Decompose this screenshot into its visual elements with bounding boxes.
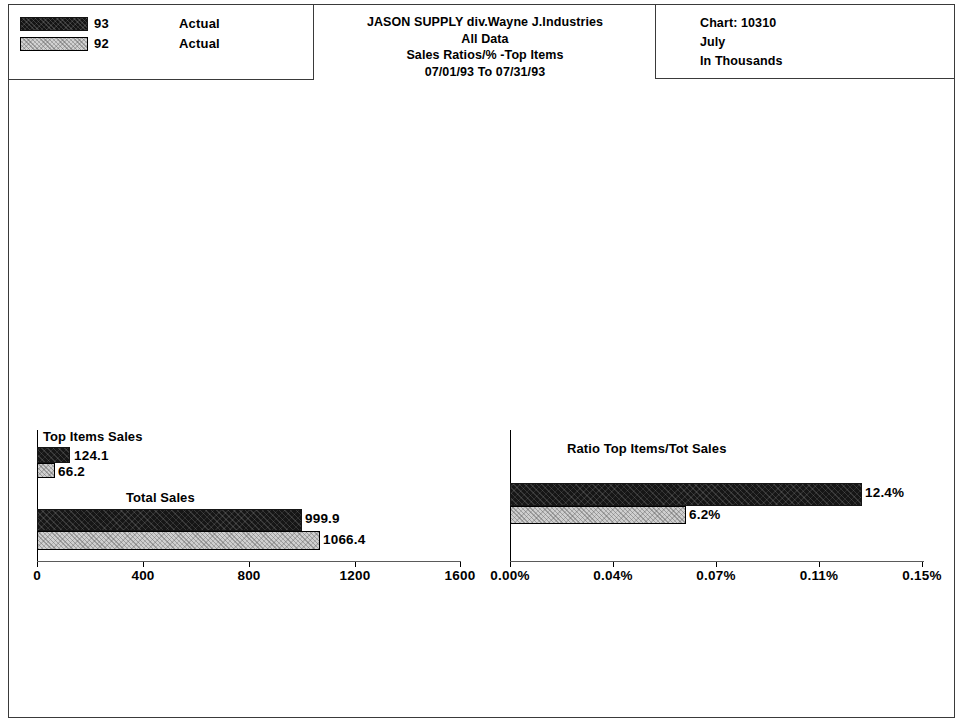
x-tick — [819, 562, 820, 567]
legend-year-93: 93 — [94, 16, 109, 31]
x-tick — [460, 562, 461, 567]
group-label-top-items-sales: Top Items Sales — [43, 430, 143, 444]
x-tick-label: 0.11% — [800, 568, 839, 583]
bar-ratio-92 — [510, 506, 686, 524]
title-scope: All Data — [461, 31, 508, 48]
x-tick-label: 0 — [33, 568, 41, 583]
report-frame — [8, 4, 955, 718]
dark-speckled-swatch — [20, 17, 88, 31]
chart-period: July — [700, 33, 954, 52]
group-label-ratio-top-items: Ratio Top Items/Tot Sales — [567, 442, 726, 456]
bar-top-items-sales-93 — [37, 447, 70, 463]
legend-type-93: Actual — [179, 16, 220, 31]
light-stippled-swatch — [20, 37, 88, 51]
x-tick-label: 0.04% — [593, 568, 632, 583]
bar-value-ratio-93: 12.4% — [865, 486, 904, 500]
title-date-range: 07/01/93 To 07/31/93 — [425, 64, 546, 81]
legend-year-92: 92 — [94, 36, 109, 51]
x-tick-label: 0.00% — [490, 568, 529, 583]
legend-box: 93 Actual 92 Actual — [8, 4, 314, 80]
bar-ratio-93 — [510, 483, 862, 506]
group-label-total-sales: Total Sales — [126, 491, 195, 505]
x-tick-label: 1600 — [445, 568, 476, 583]
bar-value-total-sales-92: 1066.4 — [323, 533, 366, 547]
x-tick — [922, 562, 923, 567]
title-subject: Sales Ratios/% -Top Items — [406, 47, 563, 64]
bar-value-total-sales-93: 999.9 — [305, 512, 340, 526]
bar-total-sales-92 — [37, 531, 320, 550]
x-tick — [510, 562, 511, 567]
bar-top-items-sales-92 — [37, 463, 55, 478]
x-tick — [716, 562, 717, 567]
x-tick — [143, 562, 144, 567]
x-tick-label: 0.15% — [902, 568, 941, 583]
legend-row — [20, 15, 88, 32]
bar-value-top-items-sales-92: 66.2 — [58, 465, 85, 479]
chart-info-box: Chart: 10310 July In Thousands — [655, 4, 955, 79]
x-tick-label: 800 — [237, 568, 260, 583]
chart-sales-amounts: Top Items Sales 124.1 66.2 Total Sales 9… — [37, 430, 461, 562]
x-axis-line — [510, 561, 924, 562]
x-tick-label: 400 — [131, 568, 154, 583]
chart-number: Chart: 10310 — [700, 14, 954, 33]
x-tick — [249, 562, 250, 567]
report-title-block: JASON SUPPLY div.Wayne J.Industries All … — [314, 4, 656, 80]
title-company: JASON SUPPLY div.Wayne J.Industries — [367, 14, 603, 31]
x-tick-label: 1200 — [340, 568, 371, 583]
bar-total-sales-93 — [37, 509, 302, 531]
legend-type-92: Actual — [179, 36, 220, 51]
x-tick — [613, 562, 614, 567]
x-tick-label: 0.07% — [696, 568, 735, 583]
chart-units: In Thousands — [700, 52, 954, 71]
bar-value-ratio-92: 6.2% — [689, 508, 721, 522]
chart-sales-ratio: Ratio Top Items/Tot Sales 12.4% 6.2% 0.0… — [510, 430, 924, 562]
x-tick — [37, 562, 38, 567]
legend-row — [20, 35, 88, 52]
x-tick — [355, 562, 356, 567]
bar-value-top-items-sales-93: 124.1 — [74, 449, 109, 463]
